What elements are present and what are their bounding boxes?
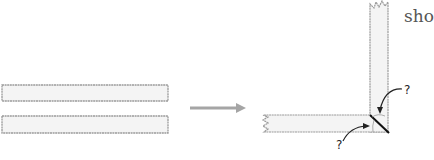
vertical-board	[370, 1, 388, 132]
right-arrow-icon	[190, 103, 246, 113]
caption-fragment: sho	[404, 6, 434, 26]
board-top	[2, 85, 168, 101]
horizontal-board	[263, 115, 388, 132]
board-bottom	[2, 116, 168, 133]
question-mark-lower: ?	[336, 138, 342, 152]
question-mark-upper: ?	[404, 83, 410, 97]
